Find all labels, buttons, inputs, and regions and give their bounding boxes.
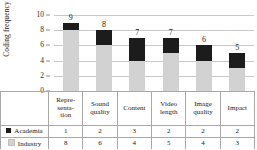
bar-stack [229, 53, 245, 91]
table-cell-academia: 2 [152, 126, 186, 138]
bar-group: 9 [54, 15, 87, 91]
bar-series-group: 987765 [54, 15, 254, 91]
table-header-cell: Impact [220, 92, 254, 126]
bar-value-label: 6 [187, 36, 220, 44]
bar-group: 6 [187, 15, 220, 91]
bar-group: 7 [154, 15, 187, 91]
table-cell-industry: 3 [220, 138, 254, 150]
bar-group: 8 [87, 15, 120, 91]
bar-group: 5 [221, 15, 254, 91]
table-header-text: quality [83, 109, 116, 117]
bar-stack [196, 45, 212, 91]
table-header-text: tion [49, 112, 82, 120]
table-header-cell: Content [117, 92, 151, 126]
table-header-cell: Soundquality [83, 92, 117, 126]
bar-segment-academia [129, 38, 145, 61]
plot-area: 987765 [54, 15, 254, 91]
stacked-bar-chart-figure: Coding frequency 0246810 987765 Repre-se… [0, 0, 257, 149]
table-row-academia: Academia 123222 [1, 126, 255, 138]
y-axis-tick-labels: 0246810 [0, 15, 50, 91]
table-cell-academia: 3 [117, 126, 151, 138]
table-row-headers: Repre-senta-tionSoundqualityContentVideo… [1, 92, 255, 126]
bar-segment-industry [163, 53, 179, 91]
bar-stack [96, 30, 112, 91]
legend-label-academia: Academia [14, 127, 42, 135]
y-tick-mark-4 [46, 60, 50, 61]
table-cell-academia: 1 [49, 126, 83, 138]
bar-segment-industry [229, 68, 245, 91]
table-header-cell: Videolength [152, 92, 186, 126]
table-cell-academia: 2 [220, 126, 254, 138]
y-tick-label-10: 10 [0, 11, 44, 19]
legend-swatch-industry-icon [8, 139, 15, 146]
table-corner-cell [1, 92, 49, 126]
bar-segment-academia [163, 38, 179, 53]
bar-value-label: 5 [221, 44, 254, 52]
table-cell-academia: 2 [186, 126, 220, 138]
table-cell-industry: 6 [83, 138, 117, 150]
table-header-cell: Imagequality [186, 92, 220, 126]
bar-value-label: 7 [121, 29, 154, 37]
bar-value-label: 8 [87, 21, 120, 29]
legend-item-industry: Industry [1, 138, 49, 150]
table-cell-industry: 5 [152, 138, 186, 150]
y-tick-label-8: 8 [0, 26, 44, 34]
y-tick-label-6: 6 [0, 42, 44, 50]
table-header-text: Impact [221, 105, 254, 113]
bar-value-label: 7 [154, 29, 187, 37]
bar-segment-academia [96, 30, 112, 45]
bar-segment-academia [196, 45, 212, 60]
bar-segment-industry [129, 61, 145, 91]
table-cell-industry: 4 [117, 138, 151, 150]
legend-label-industry: Industry [18, 139, 41, 147]
y-tick-label-4: 4 [0, 57, 44, 65]
y-tick-label-2: 2 [0, 72, 44, 80]
bar-stack [63, 23, 79, 91]
table-cell-industry: 8 [49, 138, 83, 150]
bar-segment-industry [96, 45, 112, 91]
table-header-text: Content [118, 105, 151, 113]
legend-swatch-academia-icon [6, 128, 11, 133]
table-header-cell: Repre-senta-tion [49, 92, 83, 126]
table-cell-industry: 4 [186, 138, 220, 150]
y-tick-mark-10 [46, 15, 50, 16]
bar-segment-academia [229, 53, 245, 68]
table-header-text: length [152, 109, 185, 117]
table-row-industry: Industry 864543 [1, 138, 255, 150]
bar-segment-academia [63, 23, 79, 31]
bar-group: 7 [121, 15, 154, 91]
y-tick-mark-6 [46, 45, 50, 46]
y-tick-mark-2 [46, 75, 50, 76]
bar-segment-industry [63, 30, 79, 91]
table-cell-academia: 2 [83, 126, 117, 138]
table-header-text: quality [186, 109, 219, 117]
bar-segment-industry [196, 61, 212, 91]
legend-item-academia: Academia [1, 126, 49, 138]
bar-stack [129, 38, 145, 91]
y-tick-mark-8 [46, 30, 50, 31]
bar-value-label: 9 [54, 14, 87, 22]
bar-stack [163, 38, 179, 91]
chart-data-table: Repre-senta-tionSoundqualityContentVideo… [0, 91, 255, 149]
